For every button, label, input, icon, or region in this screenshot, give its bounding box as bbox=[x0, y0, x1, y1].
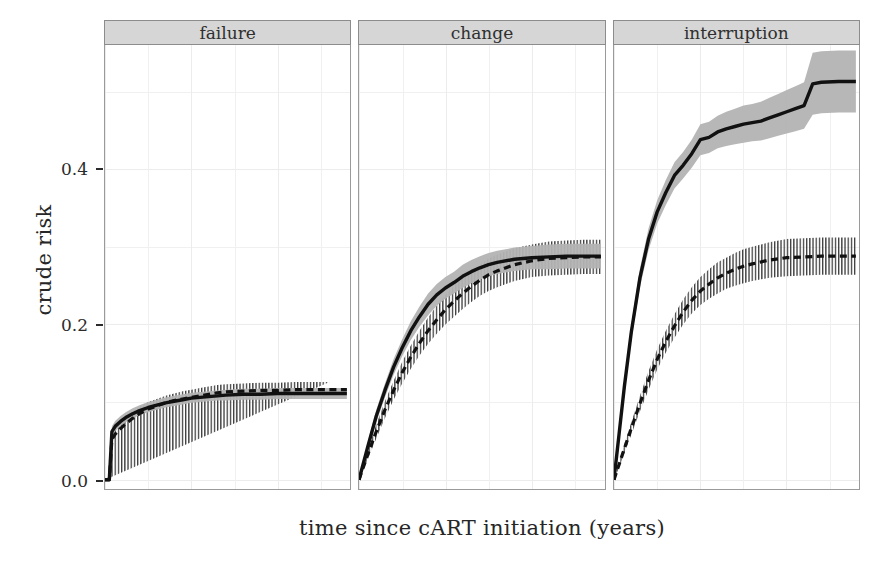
x-axis-change: 0510 bbox=[359, 489, 604, 490]
plot-area-change: 0510 bbox=[358, 45, 605, 490]
confidence-band-dashed bbox=[614, 238, 856, 480]
panel-strip-label: change bbox=[358, 20, 605, 45]
facet-panel-interruption: interruption0510 bbox=[613, 20, 860, 490]
y-axis-ticks: 0.00.20.4 bbox=[0, 0, 100, 568]
y-tick-mark bbox=[96, 324, 103, 326]
x-tick-mark bbox=[277, 489, 279, 490]
y-tick-label: 0.0 bbox=[61, 471, 88, 491]
panel-strip-label: interruption bbox=[613, 20, 860, 45]
y-tick-label: 0.4 bbox=[61, 159, 88, 179]
facet-panel-change: change0510 bbox=[358, 20, 605, 490]
x-tick-mark bbox=[190, 489, 192, 490]
plot-area-interruption: 0510 bbox=[613, 45, 860, 490]
panel-strip-label: failure bbox=[104, 20, 351, 45]
figure-root: crude risk 0.00.20.4 failure0510change05… bbox=[0, 0, 893, 568]
x-tick-mark bbox=[699, 489, 701, 490]
curve-layer bbox=[359, 45, 604, 489]
x-tick-mark bbox=[613, 489, 615, 490]
y-tick-label: 0.2 bbox=[61, 315, 88, 335]
facet-panel-row: failure0510change0510interruption0510 bbox=[104, 20, 860, 490]
curve-layer bbox=[614, 45, 859, 489]
y-tick-mark bbox=[96, 168, 103, 170]
curve-layer bbox=[105, 45, 350, 489]
x-tick-mark bbox=[785, 489, 787, 490]
x-axis-interruption: 0510 bbox=[614, 489, 859, 490]
plot-area-failure: 0510 bbox=[104, 45, 351, 490]
x-axis-title: time since cART initiation (years) bbox=[104, 516, 860, 540]
x-tick-mark bbox=[104, 489, 106, 490]
x-tick-mark bbox=[445, 489, 447, 490]
x-tick-mark bbox=[531, 489, 533, 490]
facet-panel-failure: failure0510 bbox=[104, 20, 351, 490]
y-tick-mark bbox=[96, 480, 103, 482]
x-axis-failure: 0510 bbox=[105, 489, 350, 490]
x-tick-mark bbox=[358, 489, 360, 490]
